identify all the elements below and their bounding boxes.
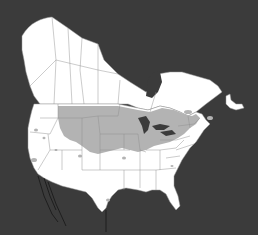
range-map <box>0 0 258 235</box>
